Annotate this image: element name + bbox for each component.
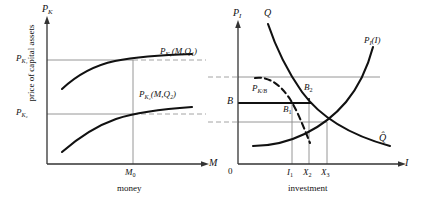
x-tick-m0: M0 (125, 168, 136, 178)
label-q-hat-curve: Q̂ (379, 133, 386, 143)
left-y-axis-arrow (44, 16, 50, 24)
left-x-axis-arrow (201, 161, 209, 167)
label-q-supply-curve: Q (264, 8, 271, 18)
label-upper-capital-price-curve: PK₁(M,Q₁) (160, 47, 197, 57)
right-y-axis-label: PI (233, 8, 241, 20)
right-x-axis-caption: investment (288, 184, 328, 193)
x-tick-x2: X2 (303, 168, 312, 178)
right-y-axis-arrow (235, 20, 241, 28)
label-investment-price-curve: PI(I) (364, 36, 381, 46)
right-x-axis-label: I (405, 158, 408, 168)
left-x-axis-label: M (209, 158, 217, 168)
left-x-axis-caption: money (117, 184, 142, 193)
x-tick-x3: X3 (321, 168, 330, 178)
left-y-axis-label: PK (42, 4, 53, 16)
left-panel (44, 16, 209, 167)
label-pk-over-b-curve: PK/B (252, 84, 267, 94)
investment-price-curve (253, 47, 373, 146)
y-tick-b: B (227, 96, 233, 106)
point-label-b2: B2 (304, 83, 313, 93)
point-label-b1: B1 (283, 105, 292, 115)
x-tick-i1: I1 (287, 168, 293, 178)
label-lower-capital-price-curve: PK₂(M,Q₂) (139, 90, 176, 100)
point-b2 (308, 98, 310, 100)
upper-capital-price-curve (62, 54, 192, 89)
y-tick-pk2: PK₂ (16, 108, 28, 118)
right-origin-label: 0 (228, 167, 233, 176)
economics-diagram (0, 0, 426, 214)
y-tick-pk1: PK₁ (16, 54, 28, 64)
point-b1 (291, 102, 293, 104)
